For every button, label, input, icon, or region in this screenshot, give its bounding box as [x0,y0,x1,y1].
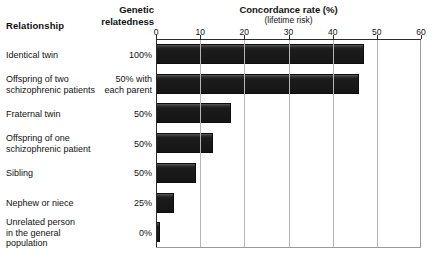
genetic-relatedness-line1: 100% [86,50,152,61]
gridline [333,40,334,247]
x-axis: 0102030405060 [156,27,421,39]
chart-subtitle: (lifetime risk) [156,15,421,25]
relationship-label: Identical twin [6,50,98,61]
genetic-relatedness-value: 50% witheach parent [86,74,152,95]
relationship-label-line2: schizophrenic patient [6,144,98,155]
genetic-relatedness-line1: 50% [86,139,152,150]
gridline [200,40,201,247]
label-row: Identical twin100% [0,40,152,70]
bar [156,133,213,153]
relationship-label: Unrelated personin the general populatio… [6,217,98,249]
genetic-relatedness-value: 0% [86,228,152,239]
column-header-genetic-line2: relatedness [82,16,154,28]
genetic-relatedness-line2: each parent [86,85,152,96]
column-header-genetic-line1: Genetic [82,4,154,16]
relationship-label-line1: Nephew or niece [6,198,98,209]
relationship-label-line1: Fraternal twin [6,109,98,120]
label-row: Unrelated personin the general populatio… [0,218,152,248]
relationship-label-line1: Offspring of two [6,74,98,85]
gridline [377,40,378,247]
genetic-relatedness-line1: 50% [86,109,152,120]
chart-figure: Relationship Genetic relatedness Concord… [0,0,433,260]
relationship-label-line2: in the general population [6,228,98,249]
relationship-label-line1: Identical twin [6,50,98,61]
genetic-relatedness-value: 50% [86,109,152,120]
relationship-label-line1: Sibling [6,168,98,179]
genetic-relatedness-line1: 50% with [86,74,152,85]
relationship-label: Offspring of oneschizophrenic patient [6,133,98,154]
gridline [156,40,157,247]
label-row: Nephew or niece25% [0,189,152,219]
genetic-relatedness-line1: 0% [86,228,152,239]
bar [156,103,231,123]
bar [156,74,359,94]
label-row: Sibling50% [0,159,152,189]
bar [156,193,174,213]
relationship-label-line1: Offspring of one [6,133,98,144]
label-row: Offspring of twoschizophrenic patients50… [0,70,152,100]
row-labels: Identical twin100%Offspring of twoschizo… [0,40,152,248]
genetic-relatedness-value: 25% [86,198,152,209]
relationship-label-line2: schizophrenic patients [6,85,98,96]
relationship-label: Nephew or niece [6,198,98,209]
x-tick-mark [421,35,422,39]
relationship-label-line1: Unrelated person [6,217,98,228]
gridline [244,40,245,247]
genetic-relatedness-value: 100% [86,50,152,61]
genetic-relatedness-line1: 50% [86,168,152,179]
genetic-relatedness-line1: 25% [86,198,152,209]
plot-area [156,40,421,248]
label-row: Offspring of oneschizophrenic patient50% [0,129,152,159]
relationship-label: Fraternal twin [6,109,98,120]
chart-title: Concordance rate (%) [156,4,421,15]
genetic-relatedness-value: 50% [86,168,152,179]
relationship-label: Offspring of twoschizophrenic patients [6,74,98,95]
genetic-relatedness-value: 50% [86,139,152,150]
column-header-genetic-relatedness: Genetic relatedness [82,4,154,27]
relationship-label: Sibling [6,168,98,179]
column-header-relationship: Relationship [6,20,64,31]
gridline [289,40,290,247]
label-row: Fraternal twin50% [0,99,152,129]
bar [156,163,196,183]
